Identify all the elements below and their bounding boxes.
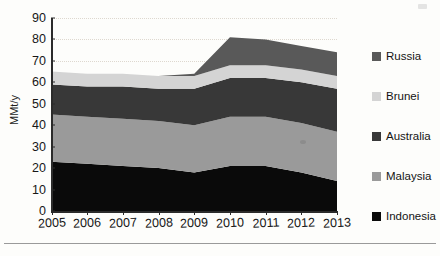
x-axis-tick-label: 2007 xyxy=(109,215,138,230)
scan-artifact-secondary xyxy=(300,140,306,144)
y-axis-tick-label: 50 xyxy=(20,98,46,111)
legend-swatch-icon xyxy=(372,172,381,181)
y-axis-tick-label: 30 xyxy=(20,140,46,153)
y-axis-tick-label: 90 xyxy=(20,12,46,25)
x-axis-tick-label: 2005 xyxy=(37,215,66,230)
y-axis-tick-mark xyxy=(51,211,55,212)
legend-swatch-icon xyxy=(372,132,381,141)
chart-legend: RussiaBruneiAustraliaMalaysiaIndonesia xyxy=(372,36,438,236)
y-axis-tick-label: 20 xyxy=(20,162,46,175)
scan-artifact xyxy=(418,4,427,9)
x-axis-tick-mark xyxy=(159,211,160,215)
legend-item-russia[interactable]: Russia xyxy=(372,36,438,76)
legend-swatch-icon xyxy=(372,212,381,221)
y-axis-tick-label: 80 xyxy=(20,33,46,46)
y-axis-tick-mark xyxy=(51,18,55,19)
x-axis-tick-label: 2006 xyxy=(73,215,102,230)
y-axis-tick-mark xyxy=(51,168,55,169)
y-axis-tick-mark xyxy=(51,189,55,190)
legend-label: Indonesia xyxy=(386,210,436,222)
y-axis-tick-mark xyxy=(51,60,55,61)
y-axis-tick-label: 70 xyxy=(20,55,46,68)
x-axis-tick-label: 2011 xyxy=(252,215,280,230)
y-axis-tick-mark xyxy=(51,146,55,147)
legend-item-malaysia[interactable]: Malaysia xyxy=(372,156,438,196)
y-axis-tick-mark xyxy=(51,39,55,40)
x-axis-tick-mark xyxy=(301,211,302,215)
x-axis-tick-label: 2013 xyxy=(323,215,352,230)
x-axis-tick-mark xyxy=(266,211,267,215)
x-axis-tick-label: 2008 xyxy=(144,215,173,230)
chart-page: MMt/y 0102030405060708090 20052006200720… xyxy=(0,0,440,256)
legend-label: Australia xyxy=(386,130,431,142)
y-axis-tick-mark xyxy=(51,103,55,104)
y-axis-tick-label: 10 xyxy=(20,183,46,196)
y-axis-line xyxy=(51,18,53,212)
footer-rule xyxy=(4,243,436,244)
legend-item-australia[interactable]: Australia xyxy=(372,116,438,156)
x-axis-tick-mark xyxy=(230,211,231,215)
x-axis-tick-mark xyxy=(123,211,124,215)
x-axis-tick-mark xyxy=(52,211,53,215)
legend-label: Brunei xyxy=(386,90,419,102)
y-axis-tick-mark xyxy=(51,125,55,126)
y-axis-tick-label: 0 xyxy=(20,205,46,218)
x-axis-tick-label: 2012 xyxy=(287,215,316,230)
y-axis-tick-mark xyxy=(51,82,55,83)
x-axis-tick-mark xyxy=(87,211,88,215)
legend-label: Russia xyxy=(386,50,421,62)
legend-label: Malaysia xyxy=(386,170,431,182)
x-axis-tick-mark xyxy=(194,211,195,215)
legend-item-indonesia[interactable]: Indonesia xyxy=(372,196,438,236)
legend-item-brunei[interactable]: Brunei xyxy=(372,76,438,116)
x-axis-tick-mark xyxy=(337,211,338,215)
legend-swatch-icon xyxy=(372,92,381,101)
y-axis-tick-label: 60 xyxy=(20,76,46,89)
x-axis-tick-label: 2010 xyxy=(216,215,245,230)
legend-swatch-icon xyxy=(372,52,381,61)
y-axis-tick-label: 40 xyxy=(20,119,46,132)
x-axis-tick-label: 2009 xyxy=(180,215,209,230)
